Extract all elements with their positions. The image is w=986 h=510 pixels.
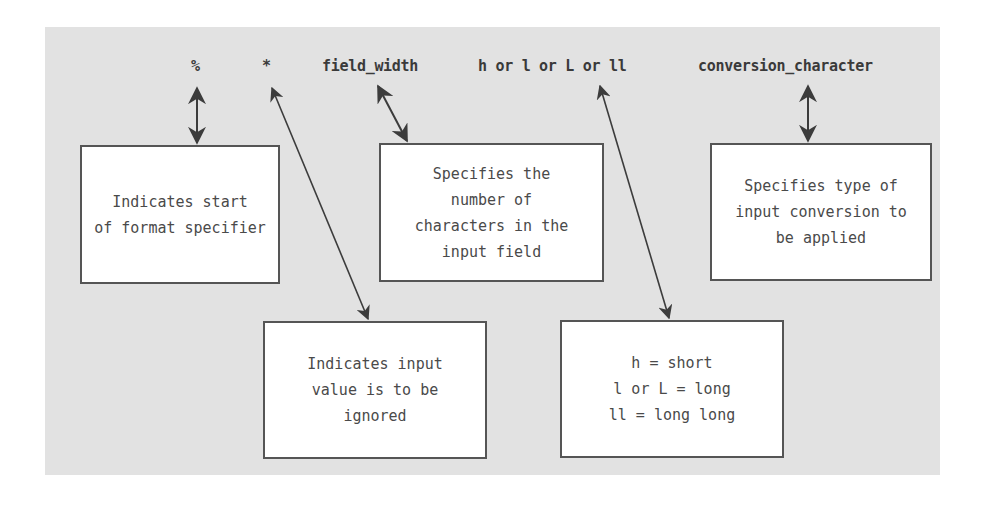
box-field-width-text: Specifies the number of characters in th…	[415, 161, 569, 265]
format-specifier-diagram: % * field_width h or l or L or ll conver…	[0, 0, 986, 510]
header-token-conversion-character: conversion_character	[698, 57, 873, 75]
box-ignore-input: Indicates input value is to be ignored	[263, 321, 487, 459]
box-start-of-specifier: Indicates start of format specifier	[80, 145, 280, 284]
header-token-percent: %	[191, 57, 200, 75]
box-length-modifier: h = short l or L = long ll = long long	[560, 320, 784, 458]
header-token-field-width: field_width	[322, 57, 418, 75]
box-field-width: Specifies the number of characters in th…	[379, 143, 604, 282]
box-length-text: h = short l or L = long ll = long long	[609, 350, 735, 428]
box-conversion-text: Specifies type of input conversion to be…	[735, 173, 907, 251]
box-ignore-text: Indicates input value is to be ignored	[307, 351, 442, 429]
header-token-asterisk: *	[262, 57, 271, 75]
header-token-length-modifier: h or l or L or ll	[478, 57, 626, 75]
box-conversion: Specifies type of input conversion to be…	[710, 143, 932, 281]
box-start-text: Indicates start of format specifier	[94, 189, 266, 241]
